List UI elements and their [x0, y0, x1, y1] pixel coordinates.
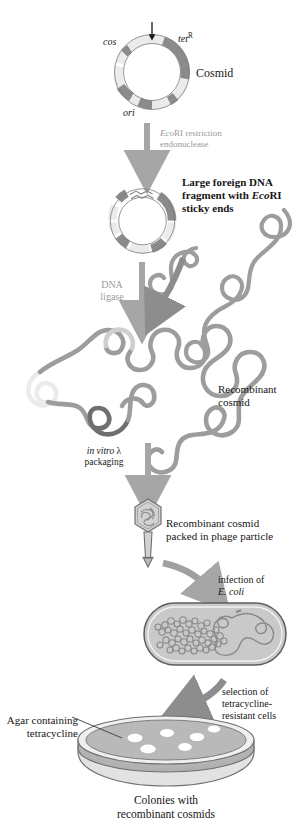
- label-ligase-line1: DNA: [101, 279, 123, 290]
- label-ecori-endonuclease: EcoRI restrictionendonuclease: [160, 128, 222, 149]
- label-in-vitro: in vitro: [87, 446, 114, 456]
- label-fragment-eco: Eco: [252, 189, 270, 201]
- label-phage-line2: packed in phage particle: [166, 530, 273, 542]
- label-agar-line1: Agar containing: [7, 714, 78, 726]
- label-caption-line2: recombinant cosmids: [117, 808, 215, 820]
- arrow-selection: [186, 680, 224, 708]
- label-plate-caption: Colonies withrecombinant cosmids: [76, 794, 256, 821]
- label-phage-line1: Recombinant cosmid: [166, 517, 259, 529]
- label-selection-line3: resistant cells: [222, 710, 276, 721]
- ecoli-cell: [144, 603, 286, 665]
- label-recombinant-line2: cosmid: [218, 396, 250, 408]
- label-dna-ligase: DNAligase: [88, 279, 136, 303]
- label-selection-line1: selection of: [222, 686, 268, 697]
- arrow-infection: [163, 563, 212, 592]
- label-endonuclease: endonuclease: [160, 139, 208, 149]
- label-infection-line1: infection of: [218, 574, 264, 585]
- label-in-vitro-packaging: in vitro λpackaging: [72, 446, 136, 468]
- label-tet-r: tetR: [178, 32, 193, 45]
- label-agar-line2: tetracycline: [27, 727, 78, 739]
- label-cosmid-title: Cosmid: [196, 66, 233, 80]
- label-fragment-ri: RI: [269, 189, 281, 201]
- label-phage-particle: Recombinant cosmidpacked in phage partic…: [166, 517, 273, 543]
- petri-dish: [72, 716, 254, 786]
- label-tet: tet: [178, 33, 188, 44]
- label-ligase-line2: ligase: [100, 291, 123, 302]
- linearized-cosmid: [110, 189, 174, 253]
- label-eco-italic: Eco: [160, 128, 174, 138]
- label-fragment-line2-pre: fragment with: [182, 189, 252, 201]
- label-agar: Agar containingtetracycline: [0, 714, 78, 740]
- label-recombinant-line1: Recombinant: [218, 383, 277, 395]
- label-packaging: packaging: [84, 457, 123, 467]
- label-lambda: λ: [114, 446, 121, 456]
- label-tet-superscript: R: [188, 32, 193, 40]
- label-ri-restriction: RI restriction: [174, 128, 222, 138]
- arrow-dna-ligase: [142, 258, 183, 318]
- label-fragment-line1: Large foreign DNA: [182, 176, 273, 188]
- label-caption-line1: Colonies with: [134, 794, 198, 806]
- phage-particle: [135, 499, 161, 567]
- label-cos: cos: [103, 36, 116, 48]
- figure-canvas: cos tetR ori Cosmid EcoRI restrictionend…: [0, 0, 302, 837]
- label-recombinant-cosmid: Recombinantcosmid: [218, 383, 277, 409]
- label-selection: selection oftetracycline-resistant cells: [222, 686, 276, 721]
- label-infection: infection ofE. coli: [218, 574, 264, 598]
- label-ori: ori: [123, 107, 135, 119]
- label-selection-line2: tetracycline-: [222, 698, 272, 709]
- label-ecoli: E. coli: [218, 586, 244, 597]
- label-foreign-fragment: Large foreign DNAfragment with EcoRIstic…: [182, 176, 282, 215]
- label-fragment-line3: sticky ends: [182, 202, 234, 214]
